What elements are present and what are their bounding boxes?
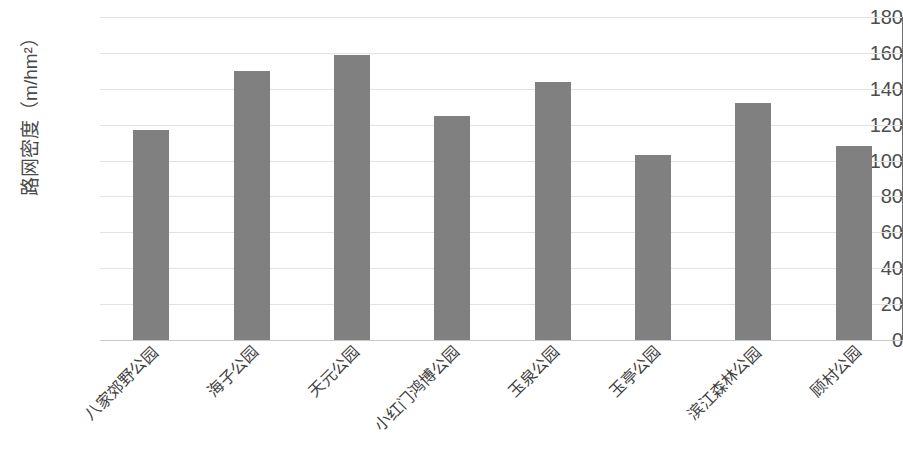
gridline [100,17,903,18]
x-axis-tick-label: 顾村公园 [808,344,865,401]
x-axis-tick-label: 小红门鸿博公园 [372,344,463,435]
gridline [100,125,903,126]
gridline [100,161,903,162]
x-axis-tick-label: 玉亭公园 [607,344,664,401]
bar [234,71,270,340]
x-axis-tick-label: 滨江森林公园 [685,344,764,423]
bar [836,146,872,340]
gridline [100,53,903,54]
bar-chart: 路网密度（m/hm²） 180160140120100806040200 八家郊… [0,0,903,463]
gridline [100,196,903,197]
plot-area [100,17,903,340]
bar [535,82,571,340]
x-axis-tick-label: 天元公园 [306,344,363,401]
bar [133,130,169,340]
gridline [100,89,903,90]
bar [334,55,370,340]
bar [434,116,470,340]
x-axis-tick-label: 八家郊野公园 [82,344,161,423]
x-axis-tick-labels: 八家郊野公园海子公园天元公园小红门鸿博公园玉泉公园玉亭公园滨江森林公园顾村公园 [0,344,903,463]
x-axis-tick-label: 海子公园 [205,344,262,401]
gridline [100,304,903,305]
gridline [100,232,903,233]
y-axis-title: 路网密度（m/hm²） [16,0,40,232]
bar [735,103,771,340]
axis-baseline [100,340,903,341]
x-axis-tick-label: 玉泉公园 [506,344,563,401]
gridline [100,268,903,269]
bar [635,155,671,340]
